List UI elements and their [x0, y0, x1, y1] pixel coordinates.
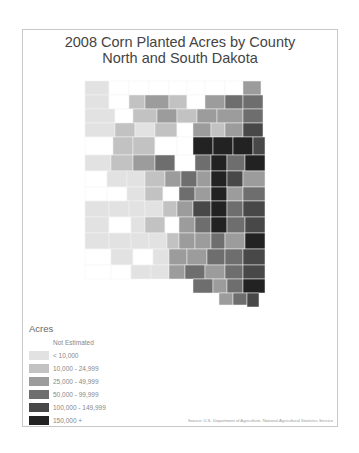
- county: [163, 201, 177, 217]
- county: [135, 123, 155, 137]
- county: [179, 217, 195, 233]
- county: [85, 201, 109, 217]
- county: [211, 155, 227, 171]
- county: [155, 155, 175, 171]
- county: [211, 187, 227, 201]
- county: [85, 233, 109, 249]
- county: [109, 81, 129, 95]
- county: [227, 279, 243, 293]
- legend-label: 10,000 - 24,999: [53, 365, 99, 372]
- county: [151, 265, 169, 279]
- legend-swatch: [29, 416, 49, 425]
- county: [195, 187, 211, 201]
- county: [85, 187, 107, 201]
- county: [145, 201, 163, 217]
- county: [133, 155, 155, 171]
- county: [245, 233, 265, 249]
- county: [129, 81, 149, 95]
- county: [145, 95, 169, 109]
- county: [213, 137, 233, 155]
- county: [107, 187, 127, 201]
- county: [213, 279, 227, 293]
- legend-label: 100,000 - 149,999: [53, 404, 106, 411]
- county: [193, 201, 211, 217]
- county: [177, 137, 193, 155]
- county: [205, 265, 225, 279]
- county: [245, 155, 265, 171]
- county: [163, 187, 179, 201]
- county: [205, 81, 225, 95]
- legend-item: 100,000 - 149,999: [29, 401, 106, 414]
- county: [195, 217, 211, 233]
- county: [153, 249, 169, 265]
- county: [193, 279, 213, 293]
- county: [197, 171, 211, 187]
- county: [217, 109, 243, 123]
- county: [243, 109, 263, 123]
- county: [111, 155, 133, 171]
- county: [227, 155, 245, 171]
- county: [211, 171, 227, 187]
- legend-item: < 10,000: [29, 349, 106, 362]
- county: [181, 171, 197, 187]
- county: [227, 217, 245, 233]
- county: [225, 81, 243, 95]
- county: [187, 249, 207, 265]
- county: [129, 95, 145, 109]
- county: [227, 201, 243, 217]
- legend-swatch: [29, 390, 49, 399]
- county: [131, 265, 151, 279]
- county: [85, 109, 115, 123]
- county: [197, 109, 217, 123]
- county: [187, 81, 205, 95]
- county: [187, 95, 205, 109]
- source-credit: Source: U.S. Department of Agriculture, …: [188, 418, 333, 423]
- county: [195, 155, 211, 171]
- county: [133, 137, 155, 155]
- county: [185, 265, 205, 279]
- county: [225, 233, 245, 249]
- county: [177, 109, 197, 123]
- county: [115, 123, 135, 137]
- county: [227, 171, 243, 187]
- county: [233, 137, 253, 155]
- legend-swatch: [29, 364, 49, 373]
- county: [243, 265, 265, 279]
- county: [111, 265, 131, 279]
- county: [243, 201, 265, 217]
- county: [243, 81, 261, 95]
- county: [253, 137, 265, 155]
- county: [127, 171, 145, 187]
- county: [205, 95, 225, 109]
- legend-label: 25,000 - 49,999: [53, 378, 99, 385]
- legend-title: Acres: [29, 323, 106, 334]
- county: [193, 123, 211, 137]
- legend-label: 50,000 - 99,999: [53, 391, 99, 398]
- legend-item: 150,000 +: [29, 414, 106, 427]
- county: [243, 187, 265, 201]
- legend-item: Not Estimated: [29, 336, 106, 349]
- county: [243, 123, 263, 137]
- county: [109, 217, 131, 233]
- county: [109, 95, 129, 109]
- county: [225, 249, 243, 265]
- county: [219, 293, 233, 305]
- county: [169, 265, 185, 279]
- county: [169, 249, 187, 265]
- county: [131, 233, 149, 249]
- legend-label: 150,000 +: [53, 417, 82, 424]
- county: [243, 279, 265, 293]
- county: [155, 123, 177, 137]
- county: [211, 217, 227, 233]
- county: [149, 81, 169, 95]
- county: [145, 171, 165, 187]
- county: [85, 81, 109, 95]
- county: [107, 171, 127, 187]
- county: [233, 293, 247, 305]
- county: [111, 249, 133, 265]
- county: [127, 187, 145, 201]
- county: [177, 123, 193, 137]
- county: [207, 249, 225, 265]
- county: [85, 137, 113, 155]
- county: [211, 233, 225, 249]
